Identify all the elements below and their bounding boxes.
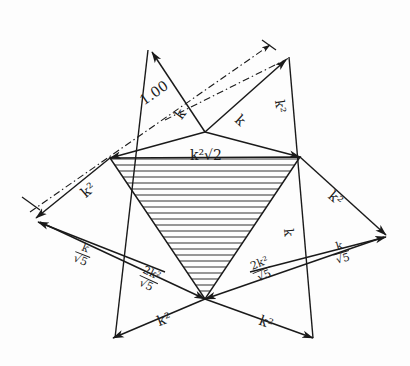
arrow-ksq-mid-left	[36, 158, 110, 218]
tick-left-end	[22, 197, 40, 210]
vector-diagram-figure: 1.00 k k k² k k² k² k²√2 k √5 k √5 2k² √…	[0, 0, 410, 366]
label-center-triangle-top: k²√2	[190, 148, 222, 162]
arrow-2ksq-over-root5-right	[205, 237, 384, 299]
arrow-k-upper-right	[205, 60, 286, 132]
label-k-lower-right-vertical: k	[282, 228, 296, 237]
label-ksq-upper-right-vertical: k²	[273, 99, 288, 114]
hatched-inner-triangle	[100, 157, 312, 299]
label-ksq-upper-right-vertical-text: k²	[272, 99, 289, 114]
diagram-canvas	[0, 0, 410, 366]
construction-dashed-lines	[30, 45, 289, 212]
dashed-unit-line	[30, 45, 270, 212]
right-vertical-chord	[289, 57, 313, 338]
